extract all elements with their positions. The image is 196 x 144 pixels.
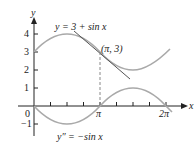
- y-axis-label: y: [30, 7, 36, 18]
- tangent-line: [74, 31, 130, 79]
- y-tick-label-1: 1: [24, 82, 29, 93]
- y-tick-label-3: 3: [24, 46, 29, 57]
- x-tick-label-2pi: 2π: [159, 108, 170, 119]
- y-axis-arrow-icon: [31, 17, 37, 24]
- y-tick-label-neg1: −1: [21, 118, 32, 129]
- x-ticks: [51, 102, 167, 106]
- graph-figure: y x 4 3 2 1 0 −1 π 2π y = 3 + sin x (π, …: [0, 0, 196, 144]
- x-axis-arrow-icon: [181, 103, 188, 109]
- x-axis-label: x: [188, 100, 194, 111]
- point-label: (π, 3): [101, 43, 123, 55]
- y-tick-label-4: 4: [24, 28, 29, 39]
- curve-label: y = 3 + sin x: [54, 21, 107, 32]
- second-derivative-label: y″ = −sin x: [56, 131, 103, 142]
- y-tick-label-2: 2: [24, 64, 29, 75]
- x-tick-label-pi: π: [96, 108, 102, 119]
